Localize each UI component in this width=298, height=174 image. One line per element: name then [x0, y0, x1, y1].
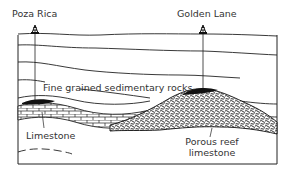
label-limestone: Limestone — [26, 130, 75, 141]
label-porous-reef-line2: limestone — [176, 147, 248, 158]
derrick-icon-right — [199, 25, 207, 34]
derrick-icon-left — [31, 25, 39, 34]
label-sedimentary-rocks: Fine grained sedimentary rocks — [43, 82, 192, 93]
label-poza-rica: Poza Rica — [12, 8, 57, 19]
label-porous-reef-line1: Porous reef — [176, 136, 248, 147]
label-porous-reef-limestone: Porous reef limestone — [176, 136, 248, 158]
label-golden-lane: Golden Lane — [177, 8, 237, 19]
oil-field-cross-section: Poza Rica Golden Lane Fine grained sedim… — [0, 0, 298, 174]
